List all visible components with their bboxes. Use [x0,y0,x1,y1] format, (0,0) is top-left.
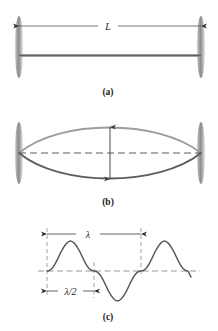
panel-c-caption: (c) [103,312,114,323]
length-label: L [104,21,111,32]
physics-figure-standing-wave: L (a) (b) λ λ/2 (c) [0,0,218,331]
right-support-post-a [197,16,205,78]
panel-a-caption: (a) [102,87,113,98]
half-lambda-label: λ/2 [63,286,76,297]
string-at-rest [19,54,201,57]
lambda-label: λ [85,229,91,240]
figure-background [0,0,218,331]
left-support-post-a [15,16,23,78]
figure-canvas: L (a) (b) λ λ/2 (c) [0,0,218,331]
panel-b-caption: (b) [102,197,114,208]
